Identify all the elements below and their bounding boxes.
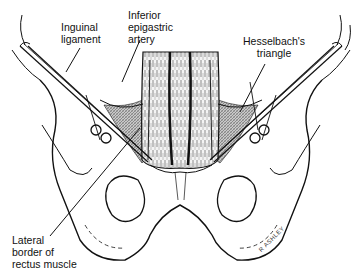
hesselbach-triangle-right <box>216 100 258 163</box>
pelvis-drawing <box>0 0 362 274</box>
label-hesselbachs-triangle: Hesselbach's triangle <box>243 35 305 59</box>
leader-hesselbachs-triangle <box>240 64 265 112</box>
label-line: artery <box>128 33 173 45</box>
label-inferior-epigastric-artery: Inferior epigastric artery <box>128 9 173 45</box>
leader-inferior-epigastric-artery <box>122 40 140 82</box>
label-line: epigastric <box>128 21 173 33</box>
femoral-vessels-left <box>91 125 111 143</box>
label-line: triangle <box>243 47 305 59</box>
label-line: Hesselbach's <box>243 35 305 47</box>
label-line: ligament <box>61 33 101 45</box>
label-lateral-border-rectus-muscle: Lateral border of rectus muscle <box>12 234 77 270</box>
label-line: Inferior <box>128 9 173 21</box>
label-line: Inguinal <box>61 21 101 33</box>
anatomical-illustration: Inguinal ligament Inferior epigastric ar… <box>0 0 362 274</box>
label-line: rectus muscle <box>12 258 77 270</box>
label-inguinal-ligament: Inguinal ligament <box>61 21 101 45</box>
label-line: border of <box>12 246 77 258</box>
leader-inguinal-ligament <box>66 48 80 72</box>
rectus-abdominis-muscle <box>142 52 219 168</box>
label-line: Lateral <box>12 234 77 246</box>
